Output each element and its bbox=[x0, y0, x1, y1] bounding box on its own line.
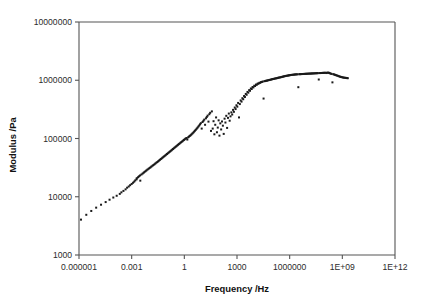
data-point bbox=[262, 81, 264, 83]
x-tick-label: 1E+12 bbox=[382, 262, 407, 272]
data-point bbox=[109, 199, 111, 201]
data-point bbox=[201, 128, 203, 130]
data-point bbox=[347, 77, 349, 79]
chart-figure: 100010000100000100000010000000 0.0000010… bbox=[0, 0, 421, 306]
data-point bbox=[217, 127, 219, 129]
data-point bbox=[210, 130, 212, 132]
data-point bbox=[228, 113, 230, 115]
data-point bbox=[249, 90, 251, 92]
data-point bbox=[230, 115, 232, 117]
data-point bbox=[216, 131, 218, 133]
data-point bbox=[214, 124, 216, 126]
data-point bbox=[318, 79, 320, 81]
data-point bbox=[105, 201, 107, 203]
data-point bbox=[218, 135, 220, 137]
data-point bbox=[230, 111, 232, 113]
data-point bbox=[218, 119, 220, 121]
data-point bbox=[242, 98, 244, 100]
x-tick-label: 1E+09 bbox=[330, 262, 355, 272]
data-point bbox=[225, 115, 227, 117]
data-point bbox=[231, 114, 233, 116]
x-axis-title: Frequency /Hz bbox=[205, 283, 269, 294]
data-point bbox=[317, 72, 319, 74]
x-tick-label: 0.000001 bbox=[61, 262, 97, 272]
data-point bbox=[116, 195, 118, 197]
data-point bbox=[90, 210, 92, 212]
data-point bbox=[222, 125, 224, 127]
data-point bbox=[120, 191, 122, 193]
data-point bbox=[227, 117, 229, 119]
data-point bbox=[212, 128, 214, 130]
y-tick-label: 100000 bbox=[43, 134, 72, 144]
data-point bbox=[263, 98, 265, 100]
y-tick-label: 1000 bbox=[53, 250, 72, 260]
data-point bbox=[186, 139, 188, 141]
data-point bbox=[122, 190, 124, 192]
data-point bbox=[220, 128, 222, 130]
x-tick-label: 1000 bbox=[227, 262, 246, 272]
x-tick-label: 1000000 bbox=[273, 262, 307, 272]
data-point bbox=[232, 109, 234, 111]
data-point bbox=[236, 106, 238, 108]
data-point bbox=[223, 133, 225, 135]
data-point bbox=[95, 207, 97, 209]
data-point bbox=[247, 92, 249, 94]
y-tick-label: 10000000 bbox=[34, 17, 72, 27]
x-tick-label: 1 bbox=[182, 262, 187, 272]
data-point bbox=[246, 94, 248, 96]
data-point bbox=[211, 110, 213, 112]
data-point bbox=[235, 108, 237, 110]
data-point bbox=[297, 86, 299, 88]
data-point bbox=[213, 120, 215, 122]
data-point bbox=[204, 124, 206, 126]
data-point bbox=[224, 122, 226, 124]
y-tick-label: 10000 bbox=[48, 192, 72, 202]
data-point bbox=[229, 120, 231, 122]
data-point bbox=[215, 116, 217, 118]
scatter-plot-svg: 100010000100000100000010000000 0.0000010… bbox=[0, 0, 421, 306]
data-point bbox=[238, 116, 240, 118]
data-point bbox=[221, 120, 223, 122]
x-tick-label: 0.001 bbox=[121, 262, 143, 272]
data-point bbox=[80, 219, 82, 221]
data-point bbox=[296, 73, 298, 75]
data-point bbox=[213, 133, 215, 135]
y-tick-label: 1000000 bbox=[39, 75, 73, 85]
y-axis-title: Modulus /Pa bbox=[7, 117, 18, 173]
data-point bbox=[331, 81, 333, 83]
data-point bbox=[100, 204, 102, 206]
data-point bbox=[207, 121, 209, 123]
data-point bbox=[207, 115, 209, 117]
data-point bbox=[241, 101, 243, 103]
data-point bbox=[239, 103, 241, 105]
data-point bbox=[224, 118, 226, 120]
data-point bbox=[219, 122, 221, 124]
data-point bbox=[244, 96, 246, 98]
data-point bbox=[251, 88, 253, 90]
data-point bbox=[233, 111, 235, 113]
data-point bbox=[85, 214, 87, 216]
data-point bbox=[139, 180, 141, 182]
data-point bbox=[112, 197, 114, 199]
data-point bbox=[226, 127, 228, 129]
